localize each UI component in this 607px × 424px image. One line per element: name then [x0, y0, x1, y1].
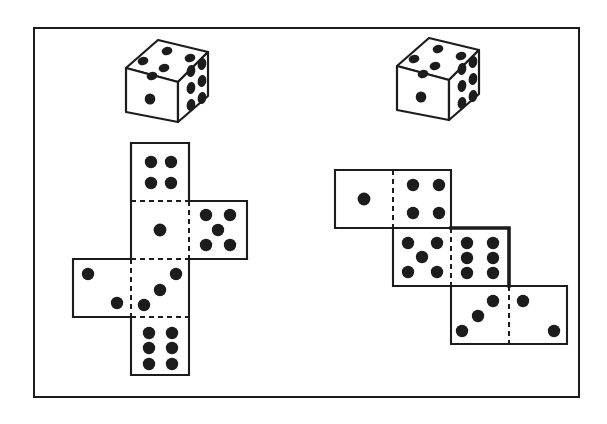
- die-3d-left: [112, 30, 222, 130]
- net-cross: [73, 143, 255, 383]
- die-3d-right: [383, 28, 493, 128]
- net-staircase-panel-top-left-pips: [358, 193, 371, 206]
- die-right-front-pips: [416, 91, 427, 102]
- net-staircase: [335, 170, 575, 350]
- net-cross-panel-center-pips: [154, 224, 167, 237]
- die-left-front-pips: [145, 93, 156, 104]
- figure-canvas: [0, 0, 607, 424]
